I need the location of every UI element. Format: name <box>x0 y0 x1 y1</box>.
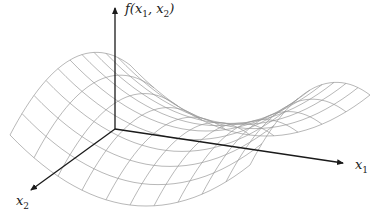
x2-axis-label: x2 <box>16 193 29 211</box>
saddle-surface-mesh <box>10 52 370 206</box>
f-axis-label: f(x1, x2) <box>125 1 174 19</box>
x2-axis-line <box>31 129 115 190</box>
surface-plot-canvas <box>0 0 383 214</box>
x1-axis-label: x1 <box>355 157 368 175</box>
surface-plot-diagram: f(x1, x2) x1 x2 <box>0 0 383 214</box>
x1-axis-line <box>115 129 343 163</box>
